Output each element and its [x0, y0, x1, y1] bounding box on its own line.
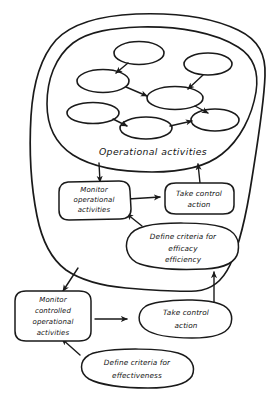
take-control-upper-line-2: action [187, 200, 210, 209]
monitor-controlled-line-2: controlled [35, 307, 72, 315]
node-define-criteria-efficacy[interactable]: Define criteria for efficacy efficiency [127, 223, 239, 269]
node-define-criteria-effectiveness[interactable]: Define criteria for effectiveness [82, 349, 194, 388]
arrow-take-control-to-operational [198, 164, 200, 183]
activity-node-5 [67, 103, 119, 124]
operational-activity-network [67, 42, 239, 140]
define-criteria-effectiveness-line-1: Define criteria for [104, 358, 171, 367]
take-control-lower-line-2: action [174, 321, 197, 330]
define-criteria-effectiveness-line-2: effectiveness [112, 371, 162, 380]
arrow-system-to-monitor-controlled [63, 268, 78, 291]
edge-n6-n7 [170, 121, 192, 126]
define-criteria-efficacy-line-3: efficiency [165, 255, 202, 264]
node-take-control-action-lower[interactable]: Take control action [139, 300, 232, 338]
monitor-controlled-line-4: activities [37, 329, 70, 337]
edge-n1-n3 [116, 63, 128, 73]
arrow-operational-to-monitor [99, 163, 100, 182]
monitor-operational-line-3: activities [78, 206, 111, 214]
activity-node-7 [191, 109, 239, 131]
edge-n2-n4 [188, 75, 203, 89]
take-control-upper-line-1: Take control [176, 189, 222, 198]
activity-node-3 [77, 70, 129, 93]
monitor-operational-line-2: operational [74, 196, 115, 204]
arrow-monitor-to-take-control-upper [128, 197, 160, 199]
monitor-controlled-line-1: Monitor [39, 296, 67, 304]
monitor-operational-line-1: Monitor [80, 186, 108, 194]
define-criteria-efficacy-line-2: efficacy [168, 244, 198, 253]
define-criteria-efficacy-line-1: Define criteria for [150, 232, 217, 241]
hand-drawn-diagram: Operational activities Monitor [0, 0, 280, 395]
node-monitor-operational-activities[interactable]: Monitor operational activities [59, 181, 131, 220]
node-monitor-controlled-operational-activities[interactable]: Monitor controlled operational activitie… [15, 291, 91, 341]
operational-activities-label: Operational activities [99, 146, 207, 157]
monitor-controlled-line-3: operational [33, 318, 74, 326]
take-control-lower-line-1: Take control [163, 308, 209, 317]
diagram-canvas: Operational activities Monitor [0, 0, 280, 395]
activity-node-6 [120, 117, 172, 139]
edge-n3-n4 [126, 87, 147, 96]
node-take-control-action-upper[interactable]: Take control action [165, 183, 234, 214]
activity-node-1 [114, 42, 164, 65]
activity-node-2 [184, 53, 232, 75]
